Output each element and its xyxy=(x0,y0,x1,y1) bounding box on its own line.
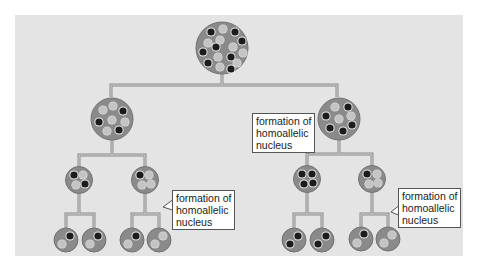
nucleus-RL xyxy=(294,166,321,193)
nucleus-RRa xyxy=(349,227,373,251)
nucleus-root xyxy=(196,22,248,74)
nucleus-RLa xyxy=(282,228,306,252)
annotation-label-homoallelic-3: formation of homoallelic nucleus xyxy=(398,188,461,228)
nucleus-LL xyxy=(66,167,93,194)
annotation-label-homoallelic-2: formation of homoallelic nucleus xyxy=(172,190,235,230)
nucleus-LRa xyxy=(120,228,144,252)
nucleus-LLb xyxy=(82,228,106,252)
nucleus-RR xyxy=(359,166,386,193)
nucleus-LLa xyxy=(54,228,78,252)
nucleus-LRb xyxy=(147,228,171,252)
nucleus-RRb xyxy=(376,227,400,251)
nucleus-RLb xyxy=(310,228,334,252)
nucleus-L xyxy=(91,98,133,140)
nucleus-R xyxy=(318,98,360,140)
annotation-label-homoallelic-1: formation of homoallelic nucleus xyxy=(252,113,315,153)
nucleus-LR xyxy=(132,167,159,194)
